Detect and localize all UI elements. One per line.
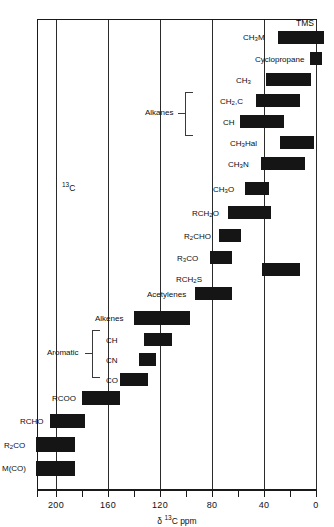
row-label-acetylenes: Acetylenes bbox=[147, 290, 186, 299]
row-label-r3co: R3CO bbox=[177, 254, 198, 265]
row-label-ch: CH bbox=[223, 118, 235, 127]
c13-annotation: 13C bbox=[62, 181, 75, 193]
row-label-ch3hal-rest: Hal bbox=[245, 139, 257, 148]
axis-tick-220 bbox=[37, 490, 38, 497]
row-label-alkenes: Alkenes bbox=[95, 314, 123, 323]
row-label-rch2o-rest: O bbox=[213, 209, 219, 218]
row-label-ch3hal-text: CH bbox=[230, 139, 242, 148]
alkanes-group-label: Alkanes bbox=[145, 108, 173, 117]
bar-acetylenes bbox=[195, 287, 232, 300]
gridline-0 bbox=[316, 19, 317, 490]
x-axis-title-rest: C ppm bbox=[172, 516, 197, 526]
row-label-r3co-rest: CO bbox=[186, 254, 198, 263]
axis-tick-label-80: 80 bbox=[194, 500, 230, 510]
bar-ch3hal bbox=[280, 136, 314, 149]
axis-tick-40 bbox=[264, 490, 265, 497]
aromatic-group-label: Aromatic bbox=[47, 348, 79, 357]
row-label-r2cho-rest: CHO bbox=[193, 232, 211, 241]
row-label-r2co-rest: CO bbox=[13, 441, 25, 450]
row-label-rcho: RCHO bbox=[20, 417, 44, 426]
bar-ch2c bbox=[256, 94, 300, 107]
bar-alkenes bbox=[134, 311, 190, 325]
bar-ch bbox=[240, 115, 284, 128]
row-label-ch3m-rest: M bbox=[258, 33, 265, 42]
axis-tick-80 bbox=[212, 490, 213, 497]
c13-nmr-chemical-shift-chart: 200 160 120 80 40 0 δ 13C ppm TMS 13C Al… bbox=[0, 0, 334, 527]
gridline-40 bbox=[264, 19, 265, 490]
axis-tick-140 bbox=[134, 490, 135, 497]
tms-label: TMS bbox=[296, 18, 314, 28]
bar-cyclopropane bbox=[310, 52, 322, 65]
row-label-aromatic-ch: CH bbox=[106, 336, 118, 345]
gridline-120 bbox=[160, 19, 161, 490]
bar-aromatic-ch bbox=[144, 333, 172, 346]
axis-tick-0 bbox=[316, 490, 317, 497]
row-label-rch2s-text: RCH bbox=[176, 275, 193, 284]
row-label-ch2c: CH2,C bbox=[220, 97, 243, 108]
row-label-cyclopropane: Cyclopropane bbox=[255, 55, 304, 64]
row-label-rch2o: RCH2O bbox=[192, 209, 219, 220]
aromatic-bracket-stem bbox=[85, 353, 92, 354]
row-label-ch3m-text: CH bbox=[243, 33, 255, 42]
aromatic-bracket bbox=[92, 330, 100, 378]
row-label-ch3n-text: CH bbox=[228, 160, 240, 169]
axis-top-edge bbox=[37, 19, 317, 20]
gridline-160 bbox=[108, 19, 109, 490]
bar-rcoo bbox=[82, 391, 120, 405]
axis-tick-60 bbox=[238, 490, 239, 497]
axis-tick-label-120: 120 bbox=[142, 500, 178, 510]
bar-r3co bbox=[210, 251, 232, 264]
row-label-ch3n-rest: N bbox=[243, 160, 249, 169]
alkanes-bracket-stem bbox=[178, 113, 185, 114]
row-label-aromatic-cn: CN bbox=[106, 356, 118, 365]
row-label-ch3o: CH3O bbox=[213, 185, 234, 196]
bar-aromatic-cn bbox=[139, 353, 156, 366]
axis-tick-180 bbox=[82, 490, 83, 497]
axis-tick-20 bbox=[290, 490, 291, 497]
row-label-mco: M(CO) bbox=[2, 464, 26, 473]
bar-rch2s bbox=[262, 263, 300, 276]
axis-tick-120 bbox=[160, 490, 161, 497]
bar-rcho bbox=[50, 414, 85, 428]
bar-ch3o bbox=[245, 182, 269, 195]
row-label-aromatic-co: CO bbox=[106, 376, 118, 385]
row-label-rch2o-text: RCH bbox=[192, 209, 209, 218]
bar-rch2o bbox=[228, 206, 271, 219]
bar-ch3n bbox=[261, 157, 305, 170]
axis-tick-100 bbox=[186, 490, 187, 497]
row-label-rch2s-rest: S bbox=[197, 275, 202, 284]
bar-ch3 bbox=[266, 73, 311, 86]
plot-area: 200 160 120 80 40 0 δ 13C ppm TMS 13C Al… bbox=[0, 0, 334, 527]
axis-tick-200 bbox=[56, 490, 57, 497]
row-label-ch3-text: CH bbox=[236, 76, 248, 85]
axis-tick-160 bbox=[108, 490, 109, 497]
x-axis-title-delta: δ bbox=[157, 516, 162, 526]
row-label-ch3o-text: CH bbox=[213, 185, 225, 194]
x-axis-title-superscript: 13 bbox=[164, 514, 171, 521]
bar-aromatic-co bbox=[120, 373, 148, 386]
axis-tick-label-160: 160 bbox=[90, 500, 126, 510]
row-label-ch3-sub: 3 bbox=[248, 79, 251, 85]
row-label-ch3n: CH3N bbox=[228, 160, 249, 171]
bar-r2cho bbox=[219, 229, 241, 242]
axis-tick-label-40: 40 bbox=[246, 500, 282, 510]
bar-mco bbox=[36, 461, 75, 476]
row-label-rch2s: RCH2S bbox=[176, 275, 202, 286]
row-label-r2co: R2CO bbox=[4, 441, 25, 452]
row-label-r2cho: R2CHO bbox=[184, 232, 211, 243]
row-label-ch3o-rest: O bbox=[228, 185, 234, 194]
row-label-ch3: CH3 bbox=[236, 76, 251, 87]
x-axis-title: δ 13C ppm bbox=[117, 514, 237, 526]
row-label-ch2c-text: CH bbox=[220, 97, 232, 106]
alkanes-bracket bbox=[185, 92, 193, 136]
axis-tick-label-0: 0 bbox=[300, 500, 332, 510]
row-label-ch3m: CH3M bbox=[243, 33, 265, 44]
bar-ch3m bbox=[278, 31, 324, 44]
row-label-rcoo: RCOO bbox=[52, 394, 76, 403]
bar-r2co bbox=[36, 437, 75, 452]
row-label-ch3hal: CH3Hal bbox=[230, 139, 257, 150]
axis-tick-label-200: 200 bbox=[38, 500, 74, 510]
c13-element: C bbox=[69, 183, 75, 193]
row-label-ch2c-rest: ,C bbox=[235, 97, 243, 106]
axis-bottom-line bbox=[37, 489, 317, 491]
